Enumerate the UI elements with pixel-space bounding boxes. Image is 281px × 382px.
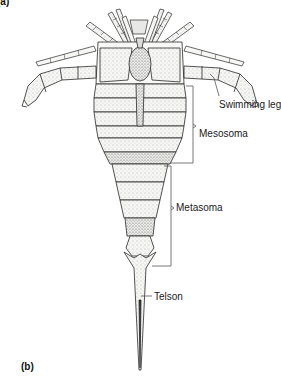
mesosoma-body [94,84,186,164]
prosoma [96,38,184,84]
metasoma-body [112,164,168,256]
label-telson: Telson [154,291,183,302]
panel-label-b: (b) [21,361,34,372]
label-swimming-leg: Swimming leg [219,99,281,110]
telson [124,252,156,370]
label-mesosoma: Mesosoma [199,128,248,139]
label-metasoma: Metasoma [176,202,223,213]
eurypterid-illustration [0,0,281,382]
eurypterid-figure: (a) [0,0,281,382]
